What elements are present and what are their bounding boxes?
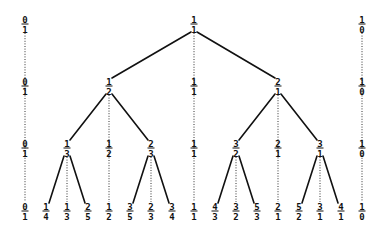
numerator: 0 [22, 77, 27, 87]
numerator: 1 [191, 139, 196, 149]
denominator: 1 [275, 87, 280, 97]
denominator: 3 [148, 212, 153, 222]
denominator: 0 [359, 87, 364, 97]
fraction-node: 53 [254, 202, 261, 222]
denominator: 1 [191, 149, 196, 159]
numerator: 2 [148, 139, 153, 149]
denominator: 1 [191, 87, 196, 97]
denominator: 1 [22, 212, 27, 222]
numerator: 2 [85, 202, 90, 212]
denominator: 2 [296, 212, 301, 222]
numerator: 1 [64, 202, 69, 212]
numerator: 2 [275, 77, 280, 87]
tree-edge [197, 32, 275, 78]
numerator: 0 [22, 15, 27, 25]
denominator: 3 [212, 212, 217, 222]
numerator: 1 [359, 77, 364, 87]
tree-edge [70, 156, 85, 203]
tree-edge [133, 156, 148, 203]
fraction-node: 32 [233, 139, 240, 159]
fraction-node: 21 [275, 139, 282, 159]
numerator: 0 [22, 202, 27, 212]
numerator: 5 [296, 202, 301, 212]
numerator: 1 [359, 15, 364, 25]
fraction-node: 11 [191, 15, 198, 35]
denominator: 5 [127, 212, 132, 222]
numerator: 1 [359, 202, 364, 212]
fraction-node: 13 [64, 202, 71, 222]
numerator: 3 [317, 202, 322, 212]
denominator: 2 [106, 149, 111, 159]
tree-edge [218, 156, 233, 203]
denominator: 0 [359, 149, 364, 159]
numerator: 1 [106, 139, 111, 149]
fraction-nodes: 0111100112112110011312231132213110011413… [22, 15, 366, 222]
fraction-node: 25 [85, 202, 92, 222]
numerator: 3 [127, 202, 132, 212]
fraction-node: 43 [212, 202, 219, 222]
numerator: 4 [212, 202, 218, 212]
fraction-node: 01 [22, 139, 29, 159]
fraction-node: 41 [338, 202, 345, 222]
denominator: 1 [22, 87, 27, 97]
fraction-node: 31 [317, 202, 324, 222]
tree-edge [70, 94, 106, 140]
fraction-node: 12 [106, 77, 113, 97]
fraction-node: 32 [233, 202, 240, 222]
numerator: 1 [191, 77, 196, 87]
fraction-node: 12 [106, 139, 113, 159]
fraction-node: 10 [359, 15, 366, 35]
denominator: 1 [275, 212, 280, 222]
fraction-node: 11 [191, 77, 198, 97]
tree-edge [239, 156, 254, 203]
denominator: 1 [317, 212, 322, 222]
denominator: 4 [43, 212, 49, 222]
numerator: 2 [275, 202, 280, 212]
fraction-node: 23 [148, 202, 155, 222]
numerator: 1 [64, 139, 69, 149]
tree-edge [154, 156, 169, 203]
numerator: 4 [338, 202, 344, 212]
numerator: 3 [169, 202, 174, 212]
numerator: 5 [254, 202, 259, 212]
numerator: 1 [359, 139, 364, 149]
denominator: 5 [85, 212, 90, 222]
tree-edge [239, 94, 275, 140]
fraction-node: 12 [106, 202, 113, 222]
numerator: 1 [106, 77, 111, 87]
fraction-node: 21 [275, 202, 282, 222]
dotted-guide-lines [25, 33, 362, 202]
fraction-node: 23 [148, 139, 155, 159]
fraction-node: 10 [359, 139, 366, 159]
denominator: 1 [22, 25, 27, 35]
fraction-node: 11 [191, 139, 198, 159]
numerator: 2 [275, 139, 280, 149]
denominator: 1 [191, 25, 196, 35]
tree-edges [49, 32, 338, 203]
fraction-node: 31 [317, 139, 324, 159]
denominator: 0 [359, 25, 364, 35]
numerator: 3 [233, 139, 238, 149]
denominator: 2 [233, 149, 238, 159]
denominator: 0 [359, 212, 364, 222]
numerator: 2 [148, 202, 153, 212]
denominator: 1 [275, 149, 280, 159]
numerator: 1 [191, 202, 196, 212]
denominator: 1 [22, 149, 27, 159]
tree-edge [112, 32, 191, 78]
fraction-node: 01 [22, 77, 29, 97]
tree-edge [302, 156, 317, 203]
numerator: 1 [106, 202, 111, 212]
denominator: 3 [148, 149, 153, 159]
denominator: 1 [338, 212, 343, 222]
denominator: 2 [106, 212, 111, 222]
denominator: 3 [254, 212, 259, 222]
fraction-node: 10 [359, 77, 366, 97]
fraction-node: 11 [191, 202, 198, 222]
fraction-node: 52 [296, 202, 303, 222]
denominator: 2 [106, 87, 111, 97]
tree-edge [49, 156, 64, 203]
tree-edge [323, 156, 338, 203]
fraction-node: 01 [22, 15, 29, 35]
numerator: 3 [233, 202, 238, 212]
